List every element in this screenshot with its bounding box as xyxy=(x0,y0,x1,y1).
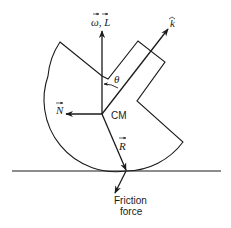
N-text: N xyxy=(55,104,64,116)
friction-label-line1: Friction xyxy=(114,195,147,206)
CM-label: CM xyxy=(111,110,127,121)
omega-L-label: ω, L xyxy=(91,14,110,28)
friction-arrow xyxy=(115,171,126,193)
R-text: R xyxy=(118,140,126,152)
omega-L-text: ω, L xyxy=(91,16,110,28)
physics-diagram: ω, L k θ N CM R Friction force xyxy=(0,0,231,228)
theta-label: θ xyxy=(114,73,120,85)
N-label: N xyxy=(55,103,64,116)
k-hat-label: k xyxy=(169,17,176,29)
body-outline xyxy=(44,41,183,172)
R-label: R xyxy=(118,138,126,152)
friction-label-line2: force xyxy=(120,206,143,217)
